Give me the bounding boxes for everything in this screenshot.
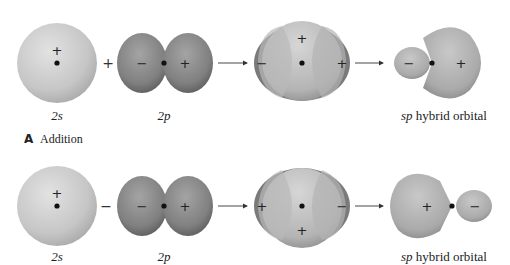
hybrid-orbital: + − sp hybrid orbital (390, 174, 492, 264)
overlap-right-sign: + (337, 56, 348, 71)
p-orbital: − + 2p (117, 33, 213, 123)
s-orbital-sign: + (52, 43, 63, 58)
s-orbital: + 2s (17, 23, 97, 123)
panel-title: Addition (40, 132, 83, 146)
operator-sign: − (100, 198, 112, 214)
p-orbital-label: 2p (158, 108, 172, 123)
overlap-left-sign: + (257, 199, 268, 214)
nucleus-dot (161, 203, 166, 208)
row-addition: + 2s + − + 2p + − + (17, 21, 487, 123)
nucleus-dot (54, 60, 59, 65)
hybrid-label: sp hybrid orbital (401, 108, 487, 123)
p-lobe-right-sign: + (180, 56, 191, 71)
s-orbital-label: 2s (51, 249, 63, 264)
overlap-right-sign: − (337, 199, 348, 214)
nucleus-dot (161, 60, 166, 65)
hybrid-small-sign: − (404, 56, 415, 71)
overlap-orbital: + − + (254, 21, 350, 101)
hybridization-diagram: + 2s + − + 2p + − + (0, 0, 510, 265)
nucleus-dot (429, 60, 434, 65)
overlap-orbital: + + − (254, 168, 350, 248)
hybrid-orbital: − + sp hybrid orbital (394, 27, 487, 123)
operator-sign: + (102, 55, 114, 71)
s-orbital: + 2s (17, 166, 97, 264)
hybrid-small-sign: − (470, 199, 481, 214)
overlap-left-sign: − (257, 56, 268, 71)
p-lobe-left-sign: − (137, 199, 148, 214)
overlap-top-sign: + (297, 31, 308, 46)
p-lobe-left-sign: − (137, 56, 148, 71)
s-orbital-sign: + (52, 186, 63, 201)
row-subtraction: + 2s − − + 2p + + − + − (17, 166, 492, 264)
p-orbital: − + 2p (117, 176, 213, 264)
nucleus-dot (299, 203, 304, 208)
nucleus-dot (299, 60, 304, 65)
hybrid-large-sign: + (422, 199, 433, 214)
nucleus-dot (449, 203, 454, 208)
p-lobe-right-sign: + (180, 199, 191, 214)
hybrid-label: sp hybrid orbital (401, 249, 487, 264)
panel-letter: A (24, 132, 34, 146)
overlap-bottom-sign: + (297, 223, 308, 238)
hybrid-large-sign: + (456, 56, 467, 71)
s-orbital-label: 2s (51, 108, 63, 123)
nucleus-dot (54, 203, 59, 208)
p-orbital-label: 2p (158, 249, 172, 264)
panel-label: A Addition (24, 132, 83, 146)
